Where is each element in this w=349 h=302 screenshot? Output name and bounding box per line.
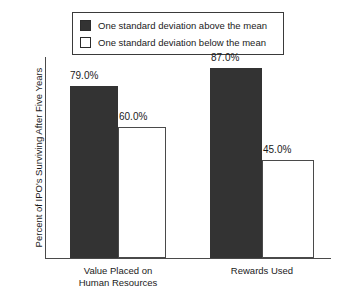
filled-square-icon	[80, 20, 91, 31]
y-axis-line	[45, 57, 46, 259]
bar-rewards-used-below-mean	[262, 160, 314, 258]
chart-legend: One standard deviation above the mean On…	[72, 12, 284, 55]
category-line-2: Human Resources	[58, 277, 178, 289]
bar-chart: One standard deviation above the mean On…	[0, 0, 349, 302]
x-axis-category-rewards-used: Rewards Used	[202, 265, 322, 277]
bar-rewards-used-above-mean	[210, 68, 262, 258]
x-axis-line	[45, 258, 331, 259]
category-line-1: Value Placed on	[58, 265, 178, 277]
category-line-1: Rewards Used	[202, 265, 322, 277]
bar-value-placed-above-mean	[70, 86, 118, 258]
bar-label-value-placed-below-mean: 60.0%	[119, 111, 147, 123]
bar-value-placed-below-mean	[118, 127, 166, 258]
y-axis-title: Percent of IPO's Surviving After Five Ye…	[33, 58, 44, 258]
legend-label-above-mean: One standard deviation above the mean	[98, 20, 267, 31]
bar-label-rewards-used-below-mean: 45.0%	[263, 144, 291, 156]
legend-item-above-mean: One standard deviation above the mean	[80, 17, 277, 34]
legend-item-below-mean: One standard deviation below the mean	[80, 34, 277, 51]
bar-label-value-placed-above-mean: 79.0%	[70, 70, 98, 82]
bar-label-rewards-used-above-mean: 87.0%	[211, 52, 239, 64]
legend-label-below-mean: One standard deviation below the mean	[98, 37, 266, 48]
x-axis-category-value-placed: Value Placed on Human Resources	[58, 265, 178, 288]
hollow-square-icon	[80, 37, 91, 48]
